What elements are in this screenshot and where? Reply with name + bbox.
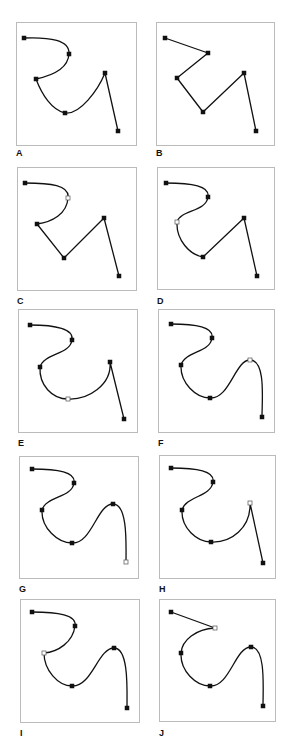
anchor-point-icon xyxy=(111,502,115,506)
panel-label-g: G xyxy=(19,584,26,594)
panel-label-f: F xyxy=(158,438,164,448)
panel-i xyxy=(21,600,140,723)
panel-e xyxy=(19,310,138,433)
anchor-point-icon xyxy=(35,222,39,226)
anchor-point-icon xyxy=(38,365,42,369)
panel-frame xyxy=(158,168,275,290)
anchor-point-icon xyxy=(62,256,66,260)
anchor-point-icon xyxy=(201,255,205,259)
selected-anchor-point-icon xyxy=(66,397,70,401)
anchor-point-icon xyxy=(210,336,214,340)
anchor-point-icon xyxy=(108,360,112,364)
anchor-point-icon xyxy=(40,508,44,512)
bezier-path xyxy=(171,324,262,417)
anchor-point-icon xyxy=(249,645,253,649)
anchor-point-icon xyxy=(73,624,77,628)
anchor-point-icon xyxy=(209,540,213,544)
panel-label-b: B xyxy=(156,148,163,158)
anchor-point-icon xyxy=(72,481,76,485)
panel-label-d: D xyxy=(157,296,164,306)
anchor-point-icon xyxy=(208,684,212,688)
panel-frame xyxy=(160,456,276,579)
panel-frame xyxy=(160,600,276,722)
anchor-point-icon xyxy=(70,684,74,688)
selected-anchor-point-icon xyxy=(248,501,252,505)
anchor-point-icon xyxy=(117,274,121,278)
anchor-point-icon xyxy=(206,195,210,199)
panel-frame xyxy=(19,310,138,433)
anchor-point-icon xyxy=(34,77,38,81)
anchor-point-icon xyxy=(103,71,107,75)
panel-label-h: H xyxy=(159,584,166,594)
bezier-path xyxy=(166,183,257,276)
panel-j xyxy=(160,600,276,722)
bezier-path xyxy=(32,612,127,708)
anchor-point-icon xyxy=(180,508,184,512)
anchor-point-icon xyxy=(201,110,205,114)
anchor-point-icon xyxy=(28,323,32,327)
selected-anchor-point-icon xyxy=(175,220,179,224)
anchor-point-icon xyxy=(208,396,212,400)
anchor-point-icon xyxy=(102,216,106,220)
anchor-point-icon xyxy=(179,651,183,655)
bezier-path xyxy=(25,183,119,276)
anchor-point-icon xyxy=(125,706,129,710)
bezier-path xyxy=(165,38,256,131)
panel-h xyxy=(160,456,276,579)
anchor-point-icon xyxy=(70,541,74,545)
selected-anchor-point-icon xyxy=(124,560,128,564)
anchor-point-icon xyxy=(260,415,264,419)
anchor-point-icon xyxy=(261,561,265,565)
selected-anchor-point-icon xyxy=(42,651,46,655)
anchor-point-icon xyxy=(261,704,265,708)
anchor-point-icon xyxy=(30,610,34,614)
panel-a xyxy=(17,23,137,146)
anchor-point-icon xyxy=(211,480,215,484)
bezier-path-figure xyxy=(0,0,288,756)
anchor-point-icon xyxy=(169,466,173,470)
figure-stage: ABCDEFGHIJ xyxy=(0,0,288,756)
panel-b xyxy=(157,23,275,146)
panel-frame xyxy=(21,600,140,723)
selected-anchor-point-icon xyxy=(248,358,252,362)
anchor-point-icon xyxy=(169,610,173,614)
selected-anchor-point-icon xyxy=(66,196,70,200)
panel-frame xyxy=(18,168,137,291)
anchor-point-icon xyxy=(122,417,126,421)
anchor-point-icon xyxy=(175,76,179,80)
anchor-point-icon xyxy=(30,467,34,471)
anchor-point-icon xyxy=(67,52,71,56)
panel-g xyxy=(20,457,139,579)
anchor-point-icon xyxy=(163,36,167,40)
anchor-point-icon xyxy=(63,111,67,115)
panel-f xyxy=(159,310,275,433)
bezier-path xyxy=(32,469,126,562)
anchor-point-icon xyxy=(164,181,168,185)
panel-frame xyxy=(159,310,275,433)
anchor-point-icon xyxy=(23,181,27,185)
anchor-point-icon xyxy=(242,216,246,220)
anchor-point-icon xyxy=(179,363,183,367)
panel-label-i: I xyxy=(20,728,23,738)
anchor-point-icon xyxy=(254,129,258,133)
anchor-point-icon xyxy=(22,36,26,40)
panel-frame xyxy=(17,23,137,146)
anchor-point-icon xyxy=(169,322,173,326)
panel-d xyxy=(158,168,275,290)
panel-c xyxy=(18,168,137,291)
panel-label-e: E xyxy=(18,438,24,448)
bezier-path xyxy=(171,468,263,563)
anchor-point-icon xyxy=(242,71,246,75)
panel-frame xyxy=(20,457,139,579)
panel-label-j: J xyxy=(159,728,164,738)
anchor-point-icon xyxy=(70,338,74,342)
anchor-point-icon xyxy=(116,129,120,133)
panel-label-c: C xyxy=(17,296,24,306)
bezier-path xyxy=(30,325,124,419)
panel-label-a: A xyxy=(16,148,23,158)
anchor-point-icon xyxy=(112,646,116,650)
anchor-point-icon xyxy=(255,274,259,278)
selected-anchor-point-icon xyxy=(213,626,217,630)
anchor-point-icon xyxy=(206,51,210,55)
